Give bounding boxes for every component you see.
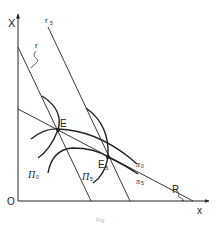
curve-Pi0-sub: 0	[36, 174, 39, 180]
label-R-group: R	[172, 184, 184, 201]
curve-Pi5-label: Π	[81, 171, 90, 182]
label-r5-group: r 5	[45, 16, 53, 26]
diagram-figure: X O x r r 5 R E E 5 Π 0 Π 5 π 0 π	[0, 0, 218, 226]
curve-Pi0-label: Π	[27, 169, 36, 180]
origin-label: O	[7, 196, 15, 207]
line-r5-sub: 5	[50, 20, 53, 26]
line-r5-label: r	[45, 16, 48, 25]
curve-pi5-sub: 5	[141, 180, 144, 186]
leader-r-icon	[31, 51, 38, 68]
y-axis-label: X	[8, 17, 16, 29]
point-E-label: E	[60, 118, 67, 129]
line-r-label: r	[35, 41, 38, 50]
straight-lines	[18, 27, 193, 201]
curve-pi0-sub: 0	[141, 163, 144, 169]
label-r-group: r	[31, 41, 38, 68]
point-E5-label: E	[98, 159, 105, 170]
curve-pi0	[31, 129, 137, 164]
curve-Pi5-sub: 5	[90, 176, 93, 182]
point-E5-sub: 5	[105, 165, 109, 171]
curve-pi5	[48, 148, 138, 174]
curve-Pi5-arc	[86, 108, 108, 183]
x-axis-label: x	[197, 205, 202, 216]
point-E5	[106, 155, 110, 159]
line-R-label: R	[172, 184, 179, 195]
figure-caption: Fig.	[96, 217, 106, 223]
